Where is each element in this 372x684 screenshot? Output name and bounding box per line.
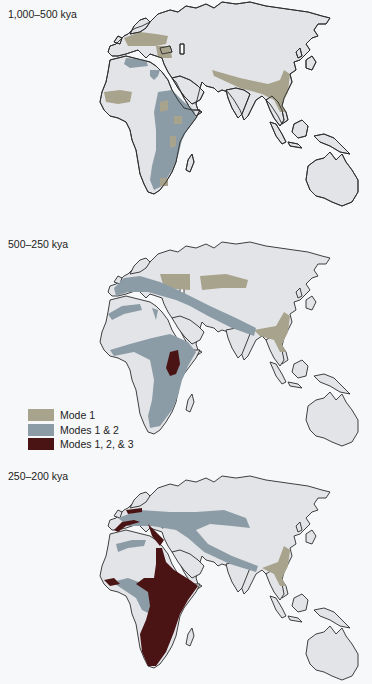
legend-item-modes123: Modes 1, 2, & 3	[28, 437, 134, 451]
map-250-200-kya	[0, 462, 372, 684]
swatch-modes12	[28, 424, 54, 436]
legend-label: Modes 1 & 2	[60, 424, 119, 436]
legend: Mode 1 Modes 1 & 2 Modes 1, 2, & 3	[28, 408, 134, 452]
map-1000-500-kya	[0, 0, 372, 225]
panel-500-250-kya: 500–250 kya Mode 1 Modes 1 & 2	[0, 230, 372, 460]
panel-250-200-kya: 250–200 kya	[0, 462, 372, 684]
legend-label: Mode 1	[60, 409, 95, 421]
legend-label: Modes 1, 2, & 3	[60, 438, 134, 450]
legend-item-mode1: Mode 1	[28, 408, 134, 422]
legend-item-modes12: Modes 1 & 2	[28, 423, 134, 437]
swatch-mode1	[28, 409, 54, 421]
swatch-modes123	[28, 438, 54, 450]
panel-1000-500-kya: 1,000–500 kya	[0, 0, 372, 225]
